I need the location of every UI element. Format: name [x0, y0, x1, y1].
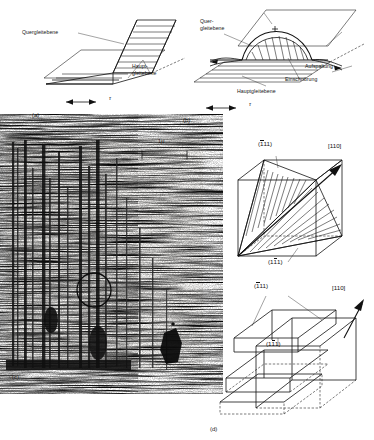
label-aufspaltung: Aufspaltung	[305, 63, 333, 69]
panel-a: Quergleitebene Haupt- gleitebene τ (a)	[0, 0, 190, 132]
cube-tetrahedron-drawing	[216, 140, 374, 288]
stress-symbol-b: τ	[249, 101, 251, 107]
panel-label-d: (d)	[210, 426, 217, 432]
stress-symbol-a: τ	[109, 95, 111, 101]
panel-a-drawing	[0, 0, 190, 132]
miller-plane-label-inner-d2: (111)	[266, 340, 280, 347]
miller-plane-label-top-d2: (111)	[254, 282, 268, 289]
overbar-digit: 1	[274, 258, 277, 265]
micrograph-image	[6, 138, 203, 370]
label-hauptgleitebene-b: Hauptgleitebene	[237, 88, 276, 94]
scale-bar	[139, 146, 193, 160]
miller-plane-label-bottom-d1: (111)	[268, 258, 282, 265]
figure-root: Quergleitebene Haupt- gleitebene τ (a)	[0, 0, 374, 440]
panel-label-b: (b)	[183, 117, 190, 123]
label-hauptgleitebene-a-line2: gleitebene	[132, 70, 156, 76]
panel-d-cube-slip-steps: (111) [110] (111)	[216, 282, 374, 430]
label-quergleitebene-a: Quergleitebene	[22, 29, 58, 35]
panel-label-c: (c)	[12, 374, 19, 380]
overbar-digit: 1	[256, 282, 259, 289]
panel-d-cube-tetrahedron: (111) [110] (111)	[216, 140, 374, 288]
panel-c-micrograph: 1μ	[6, 138, 203, 370]
stress-arrow-a	[62, 96, 106, 108]
label-einschnuerung: Einschnürung	[285, 76, 317, 82]
panel-label-a: (a)	[32, 112, 39, 118]
scale-bar-label: 1μ	[158, 138, 164, 145]
label-quergleitebene-b-line2: gleitebene	[200, 25, 224, 31]
miller-direction-label-d2: [110]	[332, 284, 345, 291]
label-quergleitebene-b-line1: Quer-	[200, 18, 214, 24]
label-hauptgleitebene-a-line1: Haupt-	[132, 63, 148, 69]
stress-arrow-b	[202, 102, 246, 114]
miller-plane-label-top-d1: (111)	[258, 140, 272, 147]
overbar-digit: 1	[272, 340, 275, 347]
miller-direction-label-d1: [110]	[328, 142, 341, 149]
overbar-digit: 1	[260, 140, 263, 147]
panel-b: Quer- gleitebene Aufspaltung Einschnürun…	[180, 0, 374, 132]
cube-slip-steps-drawing	[216, 282, 374, 430]
